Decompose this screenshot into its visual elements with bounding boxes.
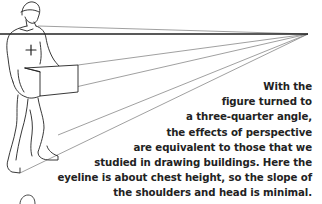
caption-line: figure turned to [12, 94, 312, 109]
caption-line: are equivalent to those that we [12, 140, 312, 155]
caption-line: eyeline is about chest height, so the sl… [12, 170, 312, 185]
caption-line: studied in drawing buildings. Here the [12, 155, 312, 170]
caption-line: With the [12, 79, 312, 94]
caption-line: the shoulders and head is minimal. [12, 185, 312, 200]
caption-line: a three-quarter angle, [12, 109, 312, 124]
caption-line: the effects of perspective [12, 125, 312, 140]
caption-text: With the figure turned to a three-quarte… [12, 79, 312, 201]
